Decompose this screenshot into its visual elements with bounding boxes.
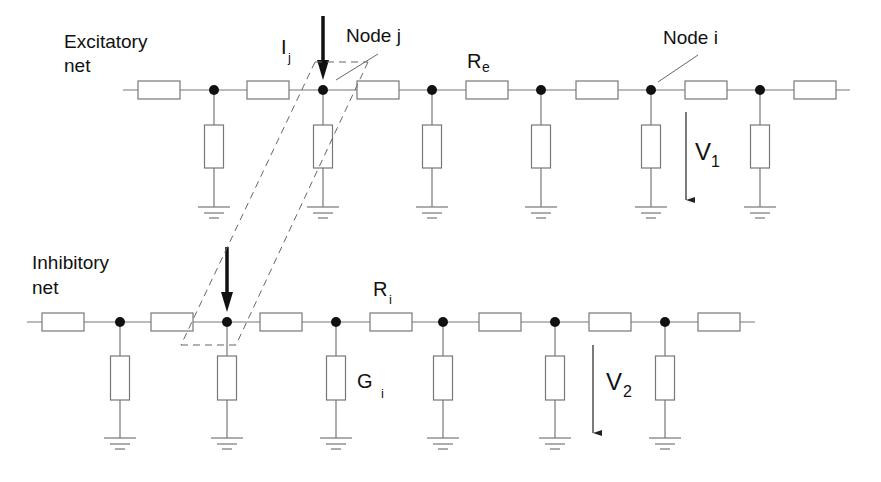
shunt-resistor [111, 356, 130, 400]
input-current-arrow-inhibitory [221, 247, 233, 312]
node-dot [427, 85, 437, 95]
excitatory-shunt-branches [198, 90, 776, 218]
ground-icon [307, 207, 339, 218]
shunt-resistor [423, 125, 442, 168]
node-dot [536, 85, 546, 95]
shunt-resistor [205, 125, 224, 168]
node-dot [318, 85, 328, 95]
series-resistor [794, 81, 836, 99]
ground-icon [539, 438, 571, 449]
inhibitory-net-label: Inhibitory [32, 252, 110, 273]
node-dot [222, 317, 232, 327]
inhibitory-net: Inhibitory net R i G i V 2 [27, 247, 755, 449]
ground-icon [649, 438, 681, 449]
inhibitory-shunt-branches [104, 322, 681, 449]
series-resistor [589, 313, 631, 331]
current-label: I [281, 36, 287, 58]
ground-icon [744, 207, 776, 218]
series-resistor [357, 81, 399, 99]
node-j-label: Node j [346, 25, 401, 46]
node-i-label: Node i [663, 27, 718, 48]
excitatory-net-label-2: net [64, 55, 91, 76]
voltage-label-v2: V [606, 368, 622, 395]
ground-icon [198, 207, 230, 218]
coupling-region-dashed [181, 62, 368, 345]
series-resistor [370, 313, 412, 331]
ground-icon [211, 438, 243, 449]
current-label-subscript: j [287, 50, 291, 65]
excitatory-net: Excitatory net I j Node j R e Node i V 1 [64, 16, 850, 218]
node-dot [755, 85, 765, 95]
series-resistor [138, 81, 180, 99]
ground-icon [525, 207, 557, 218]
conductance-label-subscript: i [381, 386, 384, 401]
ground-icon [104, 438, 136, 449]
node-dot [550, 317, 560, 327]
excitatory-resistor-label: R [467, 50, 481, 72]
input-current-arrow-excitatory [317, 16, 329, 80]
voltage-label-v1-subscript: 1 [711, 153, 720, 170]
ground-icon [416, 207, 448, 218]
node-j-pointer [336, 54, 378, 80]
series-resistor [576, 81, 618, 99]
shunt-resistor [642, 125, 661, 168]
node-dot [115, 317, 125, 327]
voltage-label-v1: V [695, 138, 711, 165]
node-dot [660, 317, 670, 327]
series-resistor [42, 313, 84, 331]
shunt-resistor [656, 356, 675, 400]
shunt-resistor [434, 356, 453, 400]
series-resistor [151, 313, 193, 331]
conductance-label: G [357, 370, 373, 392]
series-resistor [685, 81, 727, 99]
excitatory-net-label: Excitatory [64, 31, 148, 52]
ground-icon [635, 207, 667, 218]
node-dot [438, 317, 448, 327]
series-resistor [247, 81, 289, 99]
circuit-diagram: Excitatory net I j Node j R e Node i V 1… [0, 0, 881, 482]
series-resistor [479, 313, 521, 331]
series-resistor [698, 313, 740, 331]
node-dot [646, 85, 656, 95]
shunt-resistor [532, 125, 551, 168]
inhibitory-resistor-label: R [373, 278, 387, 300]
ground-icon [427, 438, 459, 449]
excitatory-resistor-label-subscript: e [482, 59, 490, 75]
shunt-resistor [218, 356, 237, 400]
node-dot [331, 317, 341, 327]
shunt-resistor [314, 125, 333, 168]
node-dot [209, 85, 219, 95]
series-resistor [260, 313, 302, 331]
voltage-label-v2-subscript: 2 [623, 383, 632, 400]
node-i-pointer [658, 55, 698, 82]
shunt-resistor [751, 125, 770, 168]
series-resistor [466, 81, 508, 99]
inhibitory-net-label-2: net [32, 277, 59, 298]
ground-icon [320, 438, 352, 449]
shunt-resistor [546, 356, 565, 400]
inhibitory-resistor-label-subscript: i [389, 292, 392, 307]
shunt-resistor [327, 356, 346, 400]
